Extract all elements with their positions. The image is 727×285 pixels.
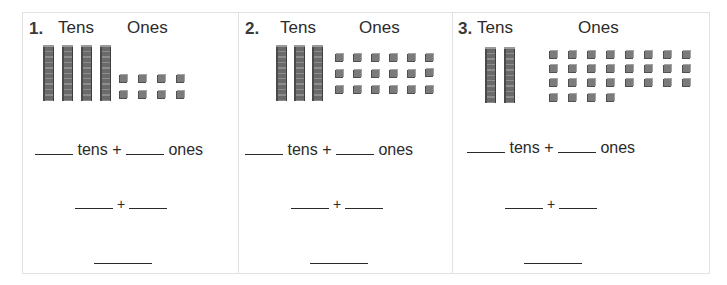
ones-cube-icon [549,65,557,73]
ones-cube-icon [176,75,184,83]
ones-cube-icon [663,79,671,87]
ones-cube-icon [587,51,595,59]
ones-cube-icon [587,94,595,102]
ones-cube-icon [176,91,184,99]
tens-rod-icon [62,47,73,101]
problem-1-panel: 1. Tens Ones tens + ones + [23,13,238,273]
addend-2-blank[interactable] [129,196,167,209]
plus-sign: + [333,196,341,212]
ones-cube-icon [138,75,146,83]
ones-cube-icon [335,54,343,62]
addend-2-blank[interactable] [345,196,383,209]
addend-2-blank[interactable] [559,196,597,209]
ones-cube-icon [606,79,614,87]
ones-cube-icon [157,75,165,83]
ones-cube-icon [371,54,379,62]
tens-ones-expression: tens + ones [245,141,413,159]
problem-number: 1. [29,19,43,39]
ones-cube-icon [157,91,165,99]
ones-cube-icon [644,65,652,73]
ones-cube-icon [625,65,633,73]
tens-rod-icon [43,47,54,101]
ones-cube-icon [606,94,614,102]
problem-2-panel: 2. Tens Ones [238,13,452,273]
plus-sign: + [544,139,553,156]
ones-cube-icon [407,86,415,94]
tens-label: Tens [280,18,316,38]
ones-cube-icon [407,70,415,78]
tens-label: Tens [477,18,513,38]
ones-label: Ones [127,18,168,38]
ones-blank[interactable] [126,142,164,155]
tens-rod-icon [504,49,515,103]
addition-expression: + [505,196,597,212]
ones-cube-icon [353,54,361,62]
tens-ones-expression: tens + ones [35,141,203,159]
ones-cube-icon [568,94,576,102]
ones-cube-icon [138,91,146,99]
ones-blank[interactable] [558,140,596,153]
plus-sign: + [547,196,555,212]
tens-word: tens [287,141,317,158]
total-blank[interactable] [524,251,582,264]
addend-1-blank[interactable] [505,196,543,209]
ones-cube-icon [682,51,690,59]
ones-cube-icon [353,70,361,78]
addition-expression: + [75,196,167,212]
ones-cube-icon [389,54,397,62]
ones-cube-icon [625,79,633,87]
ones-cube-icon [625,51,633,59]
ones-cube-icon [549,79,557,87]
ones-cube-icon [644,51,652,59]
ones-cube-icon [549,94,557,102]
ones-blank[interactable] [336,142,374,155]
ones-cube-icon [425,69,433,77]
tens-rod-icon [312,47,323,101]
tens-rod-icon [100,47,111,101]
total-blank[interactable] [94,251,152,264]
ones-cube-icon [663,51,671,59]
ones-word: ones [378,141,413,158]
ones-label: Ones [578,18,619,38]
ones-cube-icon [407,54,415,62]
plus-sign: + [322,141,331,158]
ones-cube-icon [549,51,557,59]
tens-ones-expression: tens + ones [467,139,635,157]
tens-blank[interactable] [467,140,505,153]
ones-cube-icon [425,54,433,62]
ones-label: Ones [359,18,400,38]
ones-cube-icon [119,91,127,99]
worksheet: 1. Tens Ones tens + ones + [22,12,710,274]
total-blank[interactable] [310,251,368,264]
ones-cube-icon [353,86,361,94]
ones-cube-icon [371,70,379,78]
ones-cube-icon [606,65,614,73]
ones-cube-icon [425,86,433,94]
plus-sign: + [117,196,125,212]
tens-blank[interactable] [35,142,73,155]
tens-word: tens [509,139,539,156]
ones-cube-icon [371,86,379,94]
ones-cube-icon [663,65,671,73]
ones-cube-icon [568,51,576,59]
ones-cube-icon [568,79,576,87]
tens-rod-icon [485,49,496,103]
ones-word: ones [600,139,635,156]
problem-number: 2. [245,19,259,39]
problem-3-panel: 3. Tens Ones [452,13,709,273]
addend-1-blank[interactable] [75,196,113,209]
tens-blank[interactable] [245,142,283,155]
ones-cube-icon [587,79,595,87]
ones-cube-icon [587,65,595,73]
ones-cube-icon [389,70,397,78]
tens-rod-icon [81,47,92,101]
ones-cube-icon [335,86,343,94]
ones-cube-icon [644,79,652,87]
ones-cube-icon [682,65,690,73]
tens-rod-icon [276,47,287,101]
ones-cube-icon [682,79,690,87]
tens-label: Tens [58,18,94,38]
addend-1-blank[interactable] [291,196,329,209]
ones-cube-icon [119,75,127,83]
ones-cube-icon [389,86,397,94]
